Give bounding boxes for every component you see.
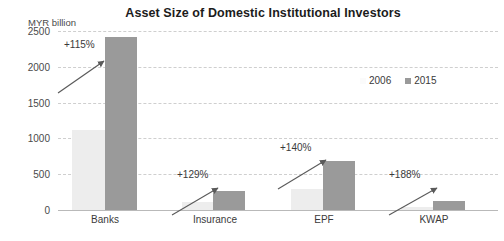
growth-arrow-banks bbox=[56, 55, 116, 97]
plot-area: 2500 2000 1500 1000 500 0 +115% +129% bbox=[58, 31, 498, 210]
growth-arrow-epf bbox=[276, 156, 334, 194]
growth-label-insurance: +129% bbox=[177, 169, 208, 180]
y-tick-2500: 2500 bbox=[6, 26, 50, 37]
y-tick-1500: 1500 bbox=[6, 97, 50, 108]
growth-label-kwap: +188% bbox=[389, 169, 420, 180]
bar-banks-2006 bbox=[72, 130, 105, 210]
x-tick-epf: EPF bbox=[291, 214, 357, 225]
legend-label-2015: 2015 bbox=[414, 75, 436, 86]
bar-chart: Asset Size of Domestic Institutional Inv… bbox=[0, 0, 504, 241]
y-tick-500: 500 bbox=[6, 169, 50, 180]
gridline-2500 bbox=[58, 31, 498, 32]
x-tick-banks: Banks bbox=[72, 214, 138, 225]
legend-swatch-2015-icon bbox=[405, 78, 411, 84]
y-tick-1000: 1000 bbox=[6, 133, 50, 144]
legend-entry-2015: 2015 bbox=[405, 75, 436, 86]
chart-legend: 2006 2015 bbox=[360, 75, 437, 86]
x-tick-insurance: Insurance bbox=[182, 214, 248, 225]
growth-label-epf: +140% bbox=[280, 142, 311, 153]
legend-swatch-2006-icon bbox=[360, 78, 366, 84]
y-tick-0: 0 bbox=[6, 205, 50, 216]
legend-entry-2006: 2006 bbox=[360, 75, 391, 86]
growth-label-banks: +115% bbox=[64, 39, 95, 50]
legend-label-2006: 2006 bbox=[369, 75, 391, 86]
y-tick-2000: 2000 bbox=[6, 61, 50, 72]
x-tick-kwap: KWAP bbox=[401, 214, 467, 225]
